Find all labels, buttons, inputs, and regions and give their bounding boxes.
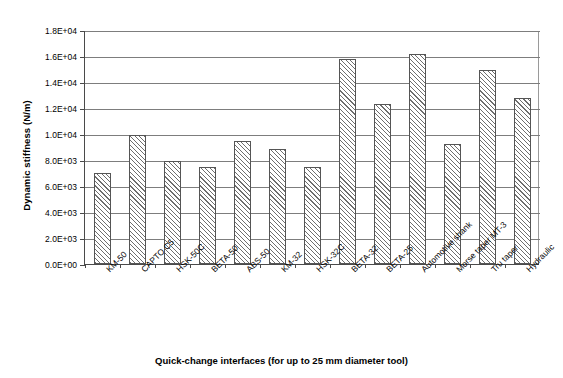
bar-slot [330, 30, 365, 264]
bar-slot [260, 30, 295, 264]
y-axis-title: Dynamic stiffness (N/m) [21, 46, 32, 266]
y-axis-tick-label: 4.0E+03 [45, 208, 77, 218]
bar [514, 98, 531, 264]
y-axis-tick-label: 6.0E+03 [45, 182, 77, 192]
y-axis-tick-label: 2.0E+03 [45, 234, 77, 244]
bar-slot [400, 30, 435, 264]
x-axis-title: Quick-change interfaces (for up to 25 mm… [0, 355, 563, 366]
bar-slot [295, 30, 330, 264]
y-axis-tick-label: 0.0E+00 [45, 260, 77, 270]
bar [339, 59, 356, 264]
bar-slot [225, 30, 260, 264]
bar-slot [85, 30, 120, 264]
y-axis-tick-label: 1.0E+04 [45, 130, 77, 140]
bar-slot [365, 30, 400, 264]
y-axis-tick-label: 1.8E+04 [45, 26, 77, 36]
bar [409, 54, 426, 264]
bar [374, 104, 391, 264]
bar [304, 167, 321, 265]
plot-area: 0.0E+002.0E+034.0E+036.0E+038.0E+031.0E+… [84, 31, 539, 265]
bars-layer [85, 30, 540, 264]
bar-chart: Dynamic stiffness (N/m) 0.0E+002.0E+034.… [0, 0, 563, 378]
bar-slot [505, 30, 540, 264]
y-axis-tick-label: 1.2E+04 [45, 104, 77, 114]
bar-slot [120, 30, 155, 264]
bar [94, 173, 111, 264]
y-axis-tick-label: 8.0E+03 [45, 156, 77, 166]
bar-slot [190, 30, 225, 264]
y-axis-tick-label: 1.4E+04 [45, 78, 77, 88]
bar [269, 149, 286, 264]
y-axis-tick-label: 1.6E+04 [45, 52, 77, 62]
bar-slot [155, 30, 190, 264]
x-axis-tick-labels: KM-50CAPTO C5HSK-50CBETA-50ABS-50KM-32HS… [84, 267, 539, 345]
bar [129, 135, 146, 264]
